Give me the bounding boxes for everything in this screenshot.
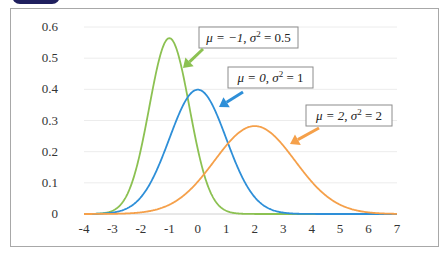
x-tick-label: 6	[365, 221, 372, 236]
y-tick-label: 0.6	[42, 19, 59, 34]
series-line-2	[84, 126, 397, 214]
x-tick-label: -1	[164, 221, 175, 236]
x-tick-label: -2	[135, 221, 146, 236]
x-tick-label: 5	[337, 221, 344, 236]
x-tick-label: 1	[223, 221, 230, 236]
y-tick-label: 0.5	[42, 50, 58, 65]
y-tick-label: 0.3	[42, 113, 58, 128]
annotation-label: μ = 2, σ2 = 2	[315, 107, 382, 123]
annotation-1: μ = 0, σ2 = 1	[219, 67, 313, 107]
x-tick-label: -3	[107, 221, 118, 236]
arrow-icon	[190, 49, 203, 62]
x-tick-label: -4	[79, 221, 90, 236]
x-tick-label: 3	[280, 221, 287, 236]
x-tick-label: 4	[308, 221, 315, 236]
y-tick-label: 0	[52, 206, 59, 221]
y-axis-ticks: 00.10.20.30.40.50.6	[42, 19, 59, 221]
x-tick-label: 7	[394, 221, 401, 236]
x-axis-ticks: -4-3-2-101234567	[79, 221, 401, 236]
x-tick-label: 2	[251, 221, 258, 236]
y-tick-label: 0.4	[42, 81, 59, 96]
normal-distribution-chart: 00.10.20.30.40.50.6 -4-3-2-101234567 μ =…	[0, 0, 447, 255]
y-tick-label: 0.2	[42, 144, 58, 159]
annotation-0: μ = −1, σ2 = 0.5	[183, 27, 298, 68]
arrow-icon	[298, 128, 319, 140]
y-tick-label: 0.1	[42, 175, 58, 190]
annotation-label: μ = 0, σ2 = 1	[236, 69, 303, 85]
annotation-label: μ = −1, σ2 = 0.5	[205, 29, 291, 45]
arrow-icon	[227, 92, 243, 102]
x-tick-label: 0	[195, 221, 202, 236]
annotations: μ = −1, σ2 = 0.5μ = 0, σ2 = 1μ = 2, σ2 =…	[183, 27, 392, 145]
annotation-2: μ = 2, σ2 = 2	[290, 105, 392, 145]
